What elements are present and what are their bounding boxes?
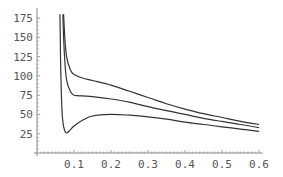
- curves: [60, 14, 259, 133]
- y-tick-label: 25: [20, 128, 33, 141]
- x-tick-label: 0.1: [64, 158, 84, 171]
- y-tick-label: 75: [20, 89, 33, 102]
- x-tick-label: 0.6: [249, 158, 269, 171]
- x-tick-label: 0.4: [175, 158, 195, 171]
- x-tick-label: 0.5: [212, 158, 232, 171]
- x-tick-label: 0.3: [138, 158, 158, 171]
- y-tick-label: 150: [13, 31, 33, 44]
- y-tick-label: 175: [13, 12, 33, 25]
- curve-middle: [63, 14, 259, 127]
- y-tick-label: 50: [20, 108, 33, 121]
- x-tick-label: 0.2: [101, 158, 121, 171]
- line-chart: 255075100125150175 0.10.20.30.40.50.6: [0, 0, 283, 177]
- y-tick-label: 100: [13, 70, 33, 83]
- curve-upper: [64, 14, 259, 124]
- y-axis: 255075100125150175: [13, 8, 40, 156]
- y-tick-label: 125: [13, 51, 33, 64]
- curve-lower: [60, 14, 259, 133]
- x-axis: 0.10.20.30.40.50.6: [34, 150, 269, 171]
